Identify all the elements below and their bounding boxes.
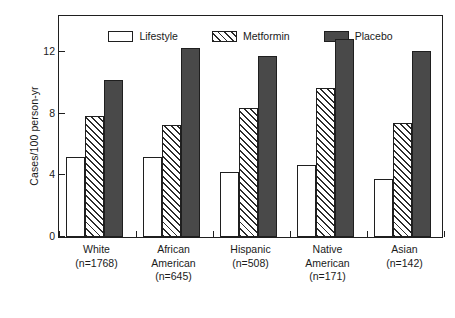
x-category-label: Hispanic(n=508) (212, 243, 289, 270)
bar-placebo-0 (104, 80, 123, 237)
bar-group (59, 16, 136, 237)
bar-lifestyle-3 (297, 165, 316, 237)
bar-metformin-4 (393, 123, 412, 237)
bar-lifestyle-1 (143, 157, 162, 237)
x-category-line: (n=171) (289, 270, 366, 284)
x-category-line: American (135, 257, 212, 271)
x-category-line: Hispanic (212, 243, 289, 257)
bar-placebo-4 (412, 51, 431, 237)
x-tick-0 (59, 231, 60, 237)
x-category-label: White(n=1768) (58, 243, 135, 270)
y-tick-label-12: 12 (43, 45, 55, 57)
x-tick-3 (290, 231, 291, 237)
x-category-line: (n=645) (135, 270, 212, 284)
x-category-line: African (135, 243, 212, 257)
bar-group (213, 16, 290, 237)
x-category-line: (n=142) (366, 257, 443, 271)
bar-group (367, 16, 444, 237)
x-axis-category-labels: White(n=1768)AfricanAmerican(n=645)Hispa… (58, 243, 443, 313)
bar-placebo-2 (258, 56, 277, 237)
y-tick-label-8: 8 (49, 107, 55, 119)
x-category-line: (n=1768) (58, 257, 135, 271)
bar-metformin-1 (162, 125, 181, 237)
plot-area: Lifestyle Metformin Placebo 04812 (58, 15, 443, 238)
bar-placebo-3 (335, 39, 354, 237)
bar-metformin-0 (85, 116, 104, 237)
y-tick-label-0: 0 (49, 230, 55, 242)
bar-placebo-1 (181, 48, 200, 237)
x-category-line: American (289, 257, 366, 271)
bar-metformin-3 (316, 88, 335, 237)
x-tick-1 (136, 231, 137, 237)
bar-series-container (59, 16, 442, 237)
bar-group (136, 16, 213, 237)
x-category-line: White (58, 243, 135, 257)
x-category-line: (n=508) (212, 257, 289, 271)
y-axis-title: Cases/100 person-yr (28, 56, 40, 216)
bar-lifestyle-2 (220, 172, 239, 237)
bar-metformin-2 (239, 108, 258, 237)
x-tick-2 (213, 231, 214, 237)
x-category-label: AfricanAmerican(n=645) (135, 243, 212, 284)
x-category-label: Asian(n=142) (366, 243, 443, 270)
x-category-line: Native (289, 243, 366, 257)
bar-lifestyle-4 (374, 179, 393, 237)
y-tick-label-4: 4 (49, 168, 55, 180)
x-category-label: NativeAmerican(n=171) (289, 243, 366, 284)
bar-chart-figure: Cases/100 person-yr Lifestyle Metformin … (0, 0, 455, 318)
x-category-line: Asian (366, 243, 443, 257)
x-tick-end (444, 231, 445, 237)
x-tick-4 (367, 231, 368, 237)
bar-group (290, 16, 367, 237)
bar-lifestyle-0 (66, 157, 85, 237)
